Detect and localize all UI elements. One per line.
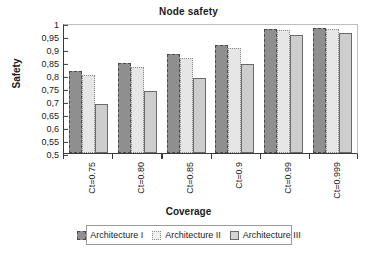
- y-axis-tick-label: 0,55: [41, 138, 64, 147]
- bar: [215, 45, 228, 153]
- legend-label: Architecture II: [165, 230, 221, 240]
- legend-swatch-icon: [152, 231, 161, 240]
- legend-label: Architecture I: [90, 230, 143, 240]
- legend-swatch-icon: [230, 231, 239, 240]
- y-axis-tick-label: 0,6: [46, 125, 64, 134]
- y-axis-tick-label: 0,65: [41, 112, 64, 121]
- x-axis-tick: Ct=0.99: [260, 154, 309, 206]
- chart-title: Node safety: [0, 6, 377, 17]
- bar-group: [210, 25, 259, 153]
- bar: [193, 78, 206, 153]
- bar: [241, 64, 254, 153]
- bar: [82, 75, 95, 153]
- bar: [339, 33, 352, 153]
- x-axis-tick-label: Ct=0.80: [137, 162, 146, 194]
- x-axis-tick: Ct=0.75: [63, 154, 112, 206]
- x-axis-tick: Ct=0.999: [309, 154, 358, 206]
- x-axis-tick: Ct=0.80: [112, 154, 161, 206]
- bar-group: [64, 25, 113, 153]
- bar-group: [259, 25, 308, 153]
- y-axis-tick-label: 0,8: [46, 73, 64, 82]
- x-axis-tick-mark: [112, 154, 113, 159]
- bar-group: [308, 25, 357, 153]
- y-axis-title: Safety: [11, 44, 22, 104]
- bar: [131, 67, 144, 153]
- bar: [326, 29, 339, 153]
- y-axis-tick-label: 0,7: [46, 99, 64, 108]
- bar: [95, 104, 108, 153]
- x-axis-tick-mark: [211, 154, 212, 159]
- legend-swatch-icon: [77, 231, 86, 240]
- y-axis-tick-label: 0,95: [41, 34, 64, 43]
- y-axis-tick-label: 1: [54, 21, 64, 30]
- x-axis-title: Coverage: [0, 206, 377, 217]
- bar-group: [162, 25, 211, 153]
- y-axis-tick-label: 0,75: [41, 86, 64, 95]
- bar-groups: [64, 25, 357, 153]
- bar: [118, 63, 131, 153]
- bar: [69, 71, 82, 153]
- y-axis-tick-label: 0,85: [41, 60, 64, 69]
- x-axis-tick-label: Ct=0.9: [235, 162, 244, 189]
- bar-group: [113, 25, 162, 153]
- chart-legend: Architecture IArchitecture IIArchitectur…: [86, 225, 292, 245]
- bar: [167, 54, 180, 153]
- legend-item[interactable]: Architecture III: [230, 230, 301, 240]
- bar: [144, 91, 157, 153]
- x-axis-tick-mark: [260, 154, 261, 159]
- x-axis-tick-label: Ct=0.999: [333, 162, 342, 199]
- bar: [264, 29, 277, 153]
- x-axis-tick-mark: [309, 154, 310, 159]
- x-axis-ticks: Ct=0.75Ct=0.80Ct=0.85Ct=0.9Ct=0.99Ct=0.9…: [63, 154, 358, 206]
- x-axis-tick: Ct=0.85: [161, 154, 210, 206]
- y-axis-tick-label: 0,9: [46, 47, 64, 56]
- bar-chart: Node safety Safety 10,950,90,850,80,750,…: [0, 0, 377, 256]
- legend-item[interactable]: Architecture I: [77, 230, 143, 240]
- legend-label: Architecture III: [243, 230, 301, 240]
- y-axis-tick-label: 0,5: [46, 151, 64, 160]
- x-axis-tick-label: Ct=0.85: [186, 162, 195, 194]
- plot-area: 10,950,90,850,80,750,70,650,60,550,5: [63, 24, 358, 154]
- legend-item[interactable]: Architecture II: [152, 230, 221, 240]
- x-axis-tick-mark: [161, 154, 162, 159]
- bar: [277, 30, 290, 153]
- bar: [228, 48, 241, 153]
- bar: [180, 58, 193, 153]
- bar: [290, 35, 303, 153]
- x-axis-tick-mark: [63, 154, 64, 159]
- x-axis-tick: Ct=0.9: [211, 154, 260, 206]
- x-axis-tick-mark: [357, 154, 358, 159]
- bar: [313, 28, 326, 153]
- x-axis-tick-label: Ct=0.75: [88, 162, 97, 194]
- x-axis-tick-label: Ct=0.99: [284, 162, 293, 194]
